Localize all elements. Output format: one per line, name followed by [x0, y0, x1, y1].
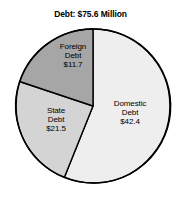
pie-label-foreign-debt-line1: Foreign [44, 42, 102, 51]
pie-label-foreign-debt-value: $11.7 [44, 60, 102, 69]
pie-label-domestic-debt-line2: Debt [96, 108, 164, 117]
pie-label-state-debt-line2: Debt [28, 115, 84, 124]
pie-label-state-debt: State Debt $21.5 [28, 106, 84, 134]
pie-label-domestic-debt-line1: Domestic [96, 99, 164, 108]
pie-label-foreign-debt: Foreign Debt $11.7 [44, 42, 102, 70]
pie-chart-figure: Debt: $75.6 Million Foreign Debt $11.7 S… [0, 0, 181, 202]
pie-label-domestic-debt-value: $42.4 [96, 117, 164, 126]
pie-label-state-debt-value: $21.5 [28, 124, 84, 133]
pie-label-foreign-debt-line2: Debt [44, 51, 102, 60]
pie-label-state-debt-line1: State [28, 106, 84, 115]
pie-label-domestic-debt: Domestic Debt $42.4 [96, 99, 164, 127]
